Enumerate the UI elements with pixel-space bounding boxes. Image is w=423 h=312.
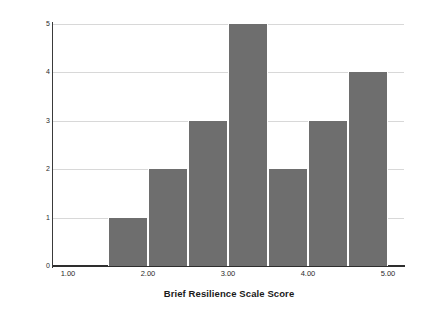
histogram-bar bbox=[268, 169, 308, 266]
histogram-bar bbox=[148, 169, 188, 266]
y-axis-tick-label: 2 bbox=[32, 164, 50, 174]
histogram-bar bbox=[308, 121, 348, 266]
histogram-bar bbox=[348, 72, 388, 266]
x-axis-tick-label: 5.00 bbox=[368, 269, 408, 278]
histogram-chart: Frequency 012345 1.002.003.004.005.00 Br… bbox=[0, 0, 423, 312]
histogram-bar bbox=[228, 24, 268, 266]
y-axis-tick-label: 1 bbox=[32, 213, 50, 223]
y-axis-title: Frequency bbox=[53, 0, 67, 25]
x-axis-tick-label: 1.00 bbox=[48, 269, 88, 278]
histogram-bar bbox=[108, 218, 148, 266]
y-axis-tick-label: 4 bbox=[32, 67, 50, 77]
plot-area bbox=[53, 24, 404, 266]
y-axis-tick-label: 3 bbox=[32, 116, 50, 126]
x-axis-tick-label: 4.00 bbox=[288, 269, 328, 278]
x-axis-title: Brief Resilience Scale Score bbox=[53, 288, 405, 299]
x-axis-tick-label: 2.00 bbox=[128, 269, 168, 278]
y-axis-tick-labels: 012345 bbox=[28, 0, 50, 312]
y-axis-tick-label: 5 bbox=[32, 19, 50, 29]
x-axis-tick-label: 3.00 bbox=[208, 269, 248, 278]
histogram-bar bbox=[188, 121, 228, 266]
